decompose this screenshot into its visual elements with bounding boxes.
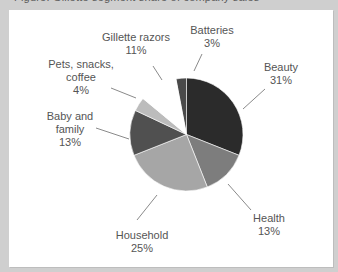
label-beauty: Beauty 31%: [256, 61, 306, 87]
label-gillette-name: Gillette razors: [94, 31, 178, 44]
label-gillette-razors: Gillette razors 11%: [94, 31, 178, 57]
leader-line-batteries: [194, 54, 202, 71]
label-household-pct: 25%: [112, 242, 172, 255]
label-beauty-name: Beauty: [256, 61, 306, 74]
label-baby-name-2: family: [40, 123, 100, 136]
leader-line-household: [137, 195, 157, 220]
label-baby-pct: 13%: [40, 136, 100, 149]
label-batteries-pct: 3%: [182, 37, 242, 50]
label-health-name: Health: [244, 212, 294, 225]
label-household: Household 25%: [112, 229, 172, 255]
label-pets-name-1: Pets, snacks,: [46, 58, 116, 71]
label-batteries: Batteries 3%: [182, 24, 242, 50]
label-health-pct: 13%: [244, 225, 294, 238]
leader-line-gillette: [153, 66, 162, 80]
label-baby-name-1: Baby and: [40, 110, 100, 123]
leader-line-health: [228, 184, 251, 210]
label-pets-snacks-coffee: Pets, snacks, coffee 4%: [46, 58, 116, 97]
leader-line-baby: [96, 128, 129, 139]
label-household-name: Household: [112, 229, 172, 242]
label-batteries-name: Batteries: [182, 24, 242, 37]
label-baby-and-family: Baby and family 13%: [40, 110, 100, 149]
label-beauty-pct: 31%: [256, 74, 306, 87]
pie-slices: [130, 78, 243, 191]
label-health: Health 13%: [244, 212, 294, 238]
label-gillette-pct: 11%: [94, 44, 178, 57]
label-pets-name-2: coffee: [46, 71, 116, 84]
leader-line-beauty: [243, 89, 265, 109]
label-pets-pct: 4%: [46, 84, 116, 97]
